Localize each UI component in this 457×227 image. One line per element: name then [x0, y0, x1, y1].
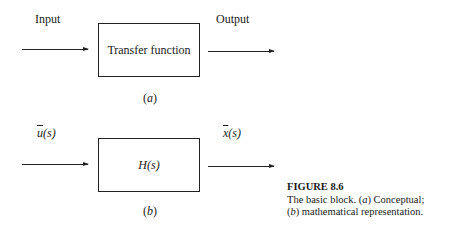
transfer-function-block: Transfer function: [98, 23, 200, 77]
output-arrow-icon: [208, 51, 274, 52]
output-arrow-icon: [208, 166, 274, 167]
input-arrow-icon: [22, 164, 88, 165]
output-var-arg: (s): [228, 126, 241, 140]
caption-text: ) Conceptual;: [367, 194, 424, 205]
caption-text: ) mathematical representation.: [296, 206, 423, 217]
input-signal-label: u(s): [37, 126, 56, 140]
paren-close: ): [153, 91, 157, 105]
input-var-arg: (s): [43, 126, 56, 140]
output-signal-label: x(s): [223, 126, 241, 140]
input-arrow-icon: [22, 49, 88, 50]
caption-line-2: (b) mathematical representation.: [287, 206, 424, 219]
figure-caption: FIGURE 8.6 The basic block. (a) Conceptu…: [287, 181, 424, 219]
input-label: Input: [35, 12, 60, 26]
transfer-function-label: Transfer function: [107, 43, 190, 58]
output-label: Output: [216, 12, 249, 26]
figure-number: FIGURE 8.6: [287, 181, 424, 194]
h-of-s-block: H(s): [98, 138, 200, 192]
caption-text: The basic block. (: [287, 194, 362, 205]
paren-close: ): [153, 204, 157, 218]
panel-b-sublabel: (b): [130, 204, 170, 219]
h-of-s-label: H(s): [138, 158, 159, 173]
caption-line-1: The basic block. (a) Conceptual;: [287, 194, 424, 207]
panel-a-sublabel: (a): [130, 91, 170, 106]
